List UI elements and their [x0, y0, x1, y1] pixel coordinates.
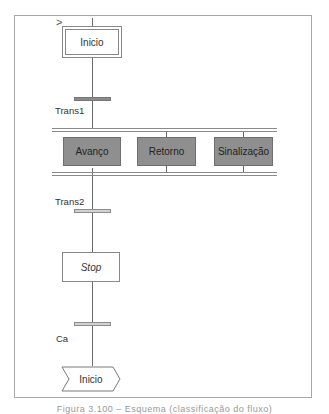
action-sinalizacao[interactable]: Sinalização: [214, 137, 273, 166]
action-retorno-label: Retorno: [149, 146, 185, 157]
transition-ca[interactable]: [74, 322, 111, 326]
initial-step-label: Inicio: [80, 37, 103, 48]
transition-ca-label: Ca: [56, 333, 68, 344]
transition-trans1[interactable]: [74, 97, 111, 101]
action-retorno[interactable]: Retorno: [137, 137, 196, 166]
transition-trans2[interactable]: [74, 209, 111, 213]
parallel-convergence-line-2: [52, 175, 277, 176]
parallel-convergence-line-1: [52, 172, 277, 173]
figure-caption: Figura 3.100 – Esquema (classificação do…: [0, 404, 329, 414]
action-sinalizacao-label: Sinalização: [218, 146, 269, 157]
stop-step-label: Stop: [81, 262, 102, 273]
initial-step[interactable]: Inicio: [62, 26, 122, 58]
action-avanco[interactable]: Avanço: [63, 137, 121, 166]
parallel-divergence-line-1: [52, 128, 277, 129]
jump-target-label: Inicio: [61, 366, 121, 392]
stop-step[interactable]: Stop: [62, 252, 120, 282]
action-avanco-label: Avanço: [75, 146, 108, 157]
jump-to-inicio[interactable]: Inicio: [61, 366, 121, 392]
transition-trans2-label: Trans2: [55, 196, 84, 207]
transition-trans1-label: Trans1: [55, 105, 84, 116]
